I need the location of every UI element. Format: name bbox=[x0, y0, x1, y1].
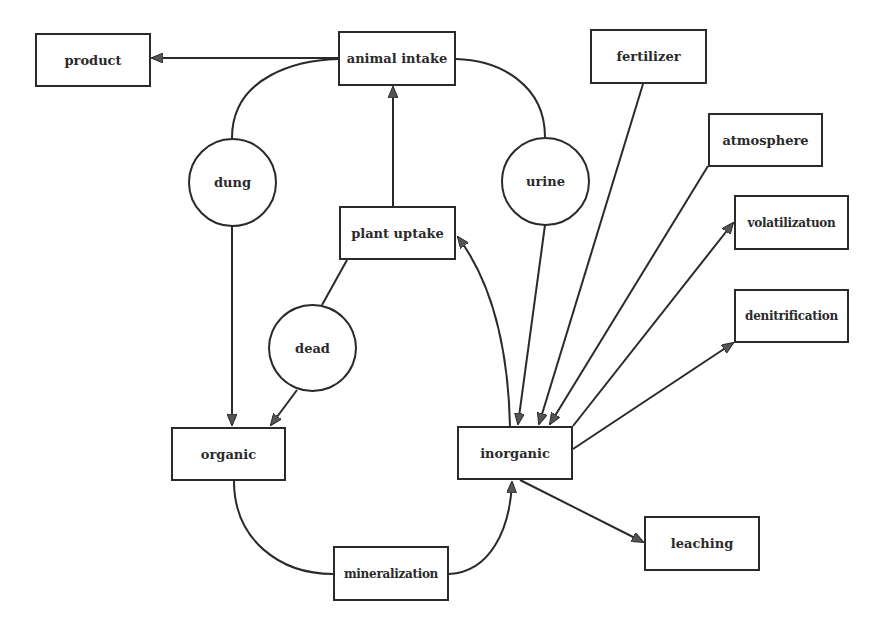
node-animal-intake-label: animal intake bbox=[347, 51, 448, 66]
node-mineralization: mineralization bbox=[333, 546, 449, 601]
edge-inorganic-to-leaching bbox=[520, 480, 643, 542]
node-product-label: product bbox=[64, 53, 121, 68]
node-inorganic: inorganic bbox=[457, 426, 573, 480]
node-organic-label: organic bbox=[201, 447, 256, 462]
node-dead-label: dead bbox=[295, 341, 330, 356]
node-leaching: leaching bbox=[644, 516, 760, 571]
node-dead: dead bbox=[268, 304, 357, 392]
node-atmosphere-label: atmosphere bbox=[722, 133, 808, 148]
node-urine: urine bbox=[501, 137, 590, 226]
node-organic: organic bbox=[171, 427, 286, 481]
edge-organic-to-mineralization bbox=[234, 481, 333, 574]
node-dung-label: dung bbox=[214, 175, 251, 190]
node-plant-uptake-label: plant uptake bbox=[351, 226, 444, 241]
node-dung: dung bbox=[188, 138, 277, 227]
node-volatilization: volatilizatuon bbox=[734, 195, 849, 250]
node-denitrification-label: denitrification bbox=[745, 309, 838, 323]
node-fertilizer: fertilizer bbox=[590, 29, 707, 84]
edge-mineralization-to-inorganic bbox=[449, 482, 512, 574]
node-volatilization-label: volatilizatuon bbox=[748, 216, 836, 230]
node-leaching-label: leaching bbox=[671, 536, 733, 551]
edge-dead-to-organic bbox=[271, 390, 297, 425]
node-mineralization-label: mineralization bbox=[344, 567, 438, 581]
node-inorganic-label: inorganic bbox=[480, 446, 550, 461]
edge-urine-to-inorganic bbox=[518, 225, 545, 424]
edge-animal-intake-to-urine bbox=[456, 59, 545, 137]
node-plant-uptake: plant uptake bbox=[339, 206, 456, 260]
node-fertilizer-label: fertilizer bbox=[616, 49, 680, 64]
node-atmosphere: atmosphere bbox=[708, 113, 823, 167]
edge-plant-uptake-to-dead bbox=[322, 260, 347, 305]
edge-animal-intake-to-dung bbox=[232, 59, 338, 138]
node-urine-label: urine bbox=[526, 174, 565, 189]
edge-inorganic-to-plant-uptake bbox=[458, 237, 510, 426]
node-product: product bbox=[35, 33, 151, 87]
node-animal-intake: animal intake bbox=[338, 31, 456, 86]
edge-fertilizer-to-inorganic bbox=[539, 84, 643, 424]
node-denitrification: denitrification bbox=[734, 289, 849, 343]
